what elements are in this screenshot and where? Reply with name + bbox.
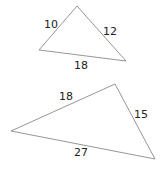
diagram-svg: 10 12 18 18 15 27 bbox=[0, 0, 160, 169]
triangle-2-side-c-label: 27 bbox=[74, 146, 88, 159]
triangle-1-side-a-label: 10 bbox=[44, 18, 58, 31]
triangle-2-side-a-label: 18 bbox=[59, 90, 73, 103]
triangle-2: 18 15 27 bbox=[11, 84, 155, 159]
triangles-diagram: 10 12 18 18 15 27 bbox=[0, 0, 160, 169]
triangle-1: 10 12 18 bbox=[39, 6, 126, 72]
triangle-2-side-b-label: 15 bbox=[134, 108, 148, 121]
triangle-1-side-b-label: 12 bbox=[103, 25, 117, 38]
triangle-1-side-c-label: 18 bbox=[74, 59, 88, 72]
